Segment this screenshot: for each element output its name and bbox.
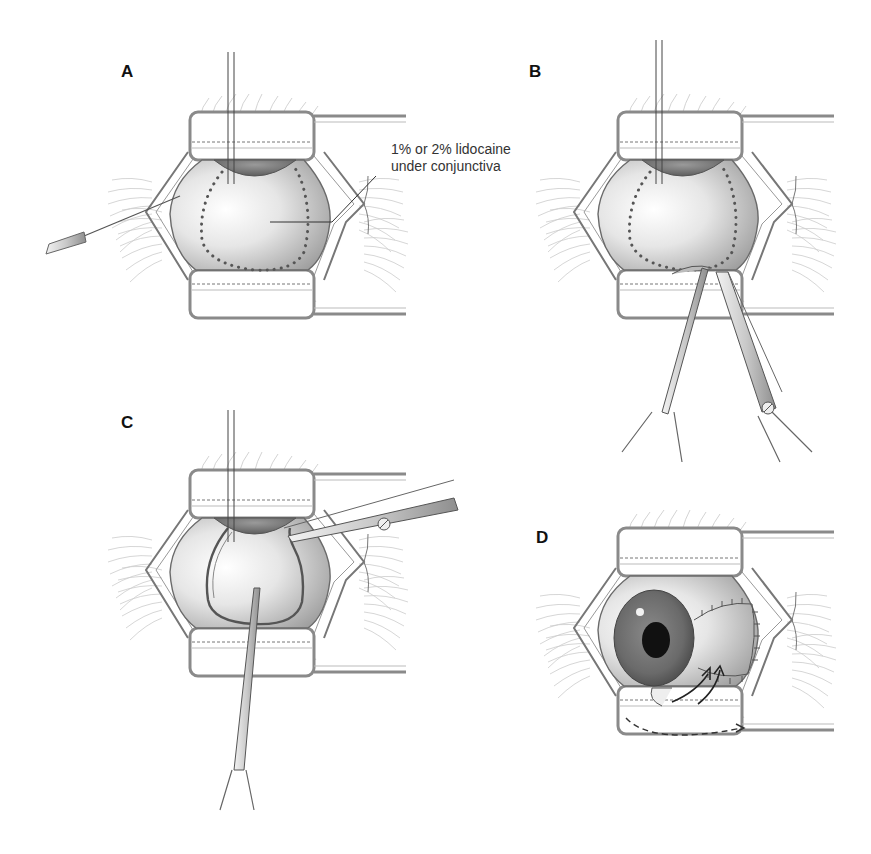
lidocaine-annotation: 1% or 2% lidocaine under conjunctiva <box>391 141 511 175</box>
panel-b <box>536 40 836 462</box>
panel-label-d: D <box>536 528 548 548</box>
annotation-line-1: 1% or 2% lidocaine <box>391 141 511 158</box>
panel-d <box>536 510 836 735</box>
panel-label-b: B <box>529 62 541 82</box>
panel-a <box>46 52 408 318</box>
panel-c <box>108 410 458 810</box>
annotation-line-2: under conjunctiva <box>391 158 511 175</box>
panel-label-a: A <box>121 62 133 82</box>
panel-label-c: C <box>121 413 133 433</box>
